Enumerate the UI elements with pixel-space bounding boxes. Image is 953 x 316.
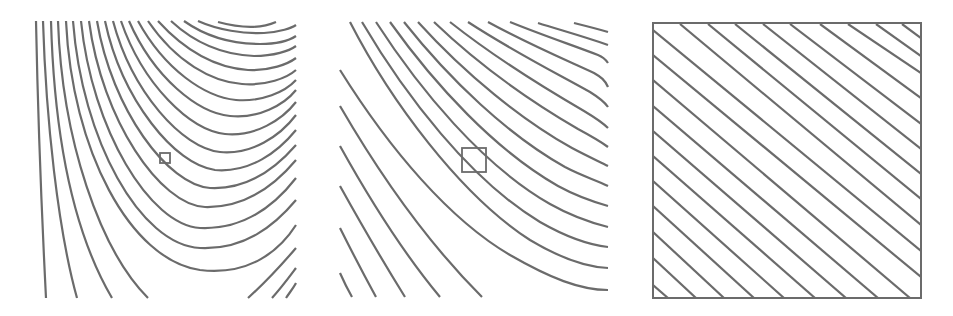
contour-plot-medium xyxy=(310,0,630,316)
contour-plot-close xyxy=(630,0,953,316)
contour-lines xyxy=(340,22,608,297)
contour-panel-wide xyxy=(0,0,320,316)
contour-panel-close xyxy=(630,0,953,316)
contour-panel-medium xyxy=(310,0,630,316)
contour-lines xyxy=(653,24,921,298)
contour-lines xyxy=(36,21,296,298)
contour-plot-wide xyxy=(0,0,320,316)
